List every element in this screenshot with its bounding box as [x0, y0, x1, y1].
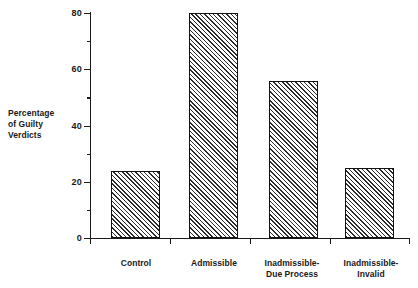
- y-tick-minor-70: [87, 41, 91, 42]
- y-tick-label-20: 20: [62, 177, 82, 187]
- y-tick-80: [84, 13, 91, 14]
- y-tick-minor-50: [87, 97, 91, 98]
- x-axis-label-inadmissible-invalid: Inadmissible- Invalid: [329, 258, 413, 279]
- y-tick-minor-30: [87, 154, 91, 155]
- bar-inadmissible-due-process: [269, 81, 318, 239]
- bar-inadmissible-invalid: [345, 168, 394, 238]
- bar-admissible: [189, 13, 238, 238]
- bar-chart: Percentage of Guilty Verdicts 80 60 40 2…: [0, 0, 418, 288]
- y-axis-title-line-3: Verdicts: [8, 130, 72, 141]
- y-tick-20: [84, 182, 91, 183]
- y-tick-60: [84, 69, 91, 70]
- y-tick-label-60: 60: [62, 64, 82, 74]
- y-tick-label-80: 80: [62, 8, 82, 18]
- x-tick-2: [250, 239, 251, 244]
- y-tick-label-0: 0: [62, 233, 82, 243]
- y-tick-40: [84, 126, 91, 127]
- x-axis-label-inadmissible-due-process: Inadmissible- Due Process: [250, 258, 334, 279]
- y-tick-label-40: 40: [62, 121, 82, 131]
- x-tick-4: [409, 239, 410, 244]
- x-tick-0: [90, 239, 91, 244]
- x-axis-label-control: Control: [96, 258, 176, 269]
- y-tick-minor-10: [87, 210, 91, 211]
- x-axis-label-admissible: Admissible: [174, 258, 254, 269]
- x-tick-1: [170, 239, 171, 244]
- x-tick-3: [330, 239, 331, 244]
- bar-control: [111, 171, 160, 239]
- y-axis-title-line-1: Percentage: [8, 108, 72, 119]
